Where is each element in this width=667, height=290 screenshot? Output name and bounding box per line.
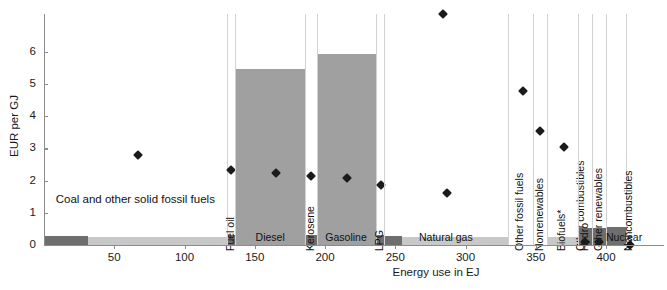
- y-axis-title: EUR per GJ: [8, 86, 20, 166]
- bar-label-natural-gas: Natural gas: [384, 231, 508, 243]
- x-tick-mark: [395, 245, 396, 249]
- x-tick-label: 400: [583, 251, 629, 263]
- bar-diesel: [235, 69, 305, 245]
- data-marker-diamond: [518, 86, 528, 96]
- y-tick-mark: [44, 84, 48, 85]
- data-marker-diamond: [559, 142, 569, 152]
- x-tick-label: 300: [443, 251, 489, 263]
- x-axis-line: [44, 245, 664, 246]
- x-tick-label: 350: [513, 251, 559, 263]
- category-separator: [376, 14, 377, 245]
- x-tick-label: 100: [162, 251, 208, 263]
- y-tick-label: 0: [14, 239, 36, 249]
- y-tick-mark: [44, 245, 48, 246]
- x-tick-mark: [466, 245, 467, 249]
- x-tick-label: 150: [232, 251, 278, 263]
- x-tick-mark: [114, 245, 115, 249]
- y-tick-mark: [44, 148, 48, 149]
- category-separator: [606, 14, 607, 245]
- y-tick-mark: [44, 52, 48, 53]
- category-separator: [317, 14, 318, 245]
- x-tick-mark: [325, 245, 326, 249]
- x-axis-title: Energy use in EJ: [0, 266, 667, 278]
- x-tick-label: 50: [91, 251, 137, 263]
- bar-label-noncombustibles: Noncombustibles: [622, 170, 634, 251]
- x-tick-mark: [185, 245, 186, 249]
- bar-gasoline: [317, 54, 376, 245]
- bar-label-diesel: Diesel: [235, 231, 305, 243]
- category-separator: [547, 14, 548, 245]
- bar-label-coal-and-other-solid-fossil-fuels: Coal and other solid fossil fuels: [50, 193, 221, 206]
- plot-area: Coal and other solid fossil fuelsFuel oi…: [0, 0, 667, 290]
- x-tick-mark: [255, 245, 256, 249]
- category-separator: [508, 14, 509, 245]
- bar-segment-dark: [44, 236, 88, 245]
- y-tick-mark: [44, 116, 48, 117]
- data-marker-diamond: [442, 188, 452, 198]
- bar-label-other-fossil-fuels: Other fossil fuels: [513, 173, 525, 251]
- category-separator: [578, 14, 579, 245]
- bar-label-gasoline: Gasoline: [317, 231, 376, 243]
- chart-figure: Coal and other solid fossil fuelsFuel oi…: [0, 0, 667, 290]
- y-tick-label: 2: [14, 175, 36, 185]
- x-axis-title-text: Energy use in EJ: [393, 266, 480, 278]
- data-marker-diamond: [535, 126, 545, 136]
- bar-label-lpg: LPG: [373, 230, 385, 251]
- x-tick-mark: [536, 245, 537, 249]
- category-separator: [235, 14, 236, 245]
- category-separator: [227, 14, 228, 245]
- y-tick-label: 6: [14, 46, 36, 56]
- data-marker-diamond: [438, 9, 448, 19]
- y-tick-label: 1: [14, 207, 36, 217]
- x-tick-label: 250: [372, 251, 418, 263]
- x-tick-label: 200: [302, 251, 348, 263]
- y-axis-line: [44, 14, 45, 245]
- data-marker-diamond: [133, 150, 143, 160]
- data-marker-diamond: [306, 171, 316, 181]
- y-tick-mark: [44, 181, 48, 182]
- bar-label-nonrenewables: Nonrenewables: [533, 178, 545, 251]
- x-tick-mark: [606, 245, 607, 249]
- category-separator: [384, 14, 385, 245]
- y-tick-mark: [44, 213, 48, 214]
